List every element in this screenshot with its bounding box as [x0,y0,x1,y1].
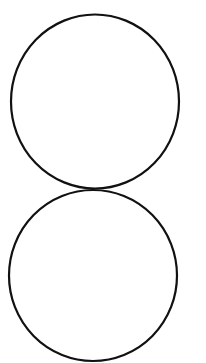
two-circles-figure [0,0,206,363]
diagram-canvas [0,0,206,363]
upper-circle [11,15,179,189]
lower-circle [9,190,177,361]
